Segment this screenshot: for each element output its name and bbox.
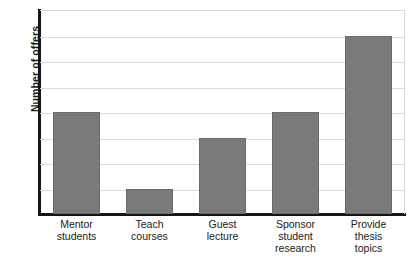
bars-layer	[40, 11, 404, 214]
plot-area: 012345678	[40, 10, 405, 214]
x-tick-label: Guest lecture	[186, 218, 259, 242]
x-tick-labels: Mentor studentsTeach coursesGuest lectur…	[40, 218, 405, 260]
bar	[345, 36, 393, 215]
x-tick-label: Sponsor student research	[259, 218, 332, 255]
x-tick-label: Teach courses	[113, 218, 186, 242]
bar	[53, 112, 101, 214]
bar-chart: Number of offers 012345678 Mentor studen…	[0, 0, 419, 260]
bar	[126, 189, 174, 215]
x-tick-label: Mentor students	[40, 218, 113, 242]
bar	[199, 138, 247, 215]
x-tick-label: Provide thesis topics	[332, 218, 405, 255]
bar	[272, 112, 320, 214]
